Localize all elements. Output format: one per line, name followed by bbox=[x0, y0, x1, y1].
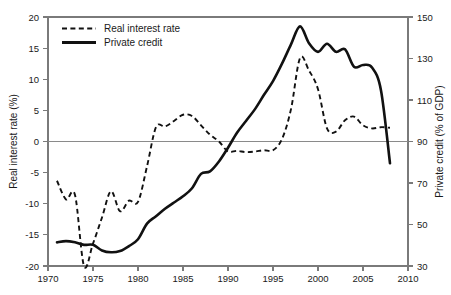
left-axis-ticks bbox=[43, 17, 48, 266]
x-tick-label: 1975 bbox=[82, 273, 103, 284]
right-axis-ticks bbox=[408, 17, 413, 266]
legend-label-private-credit: Private credit bbox=[104, 37, 163, 48]
left-tick-label: -20 bbox=[25, 261, 39, 272]
right-tick-label: 90 bbox=[417, 136, 428, 147]
right-axis-title: Private credit (% of GDP) bbox=[434, 85, 445, 197]
legend-label-real-interest-rate: Real interest rate bbox=[104, 23, 181, 34]
left-tick-label: 0 bbox=[34, 136, 39, 147]
right-tick-label: 50 bbox=[417, 219, 428, 230]
left-axis-title: Real interest rate (%) bbox=[8, 94, 19, 188]
series-private-credit bbox=[57, 26, 390, 252]
left-tick-label: 5 bbox=[34, 105, 39, 116]
left-tick-label: 20 bbox=[28, 12, 39, 23]
x-tick-label: 2000 bbox=[307, 273, 328, 284]
left-tick-label: -10 bbox=[25, 198, 39, 209]
right-axis-tick-labels: 150 130 110 90 70 50 30 bbox=[417, 12, 433, 272]
left-tick-label: -15 bbox=[25, 229, 39, 240]
right-tick-label: 150 bbox=[417, 12, 433, 23]
x-axis-tick-labels: 1970 1975 1980 1985 1990 1995 2000 2005 … bbox=[37, 273, 418, 284]
chart-canvas: 20 15 10 5 0 -5 -10 -15 -20 150 130 110 … bbox=[0, 0, 451, 295]
x-tick-label: 1980 bbox=[127, 273, 148, 284]
x-tick-label: 2005 bbox=[352, 273, 373, 284]
series-real-interest-rate bbox=[57, 56, 390, 267]
x-tick-label: 1970 bbox=[37, 273, 58, 284]
right-tick-label: 130 bbox=[417, 53, 433, 64]
chart-figure: 20 15 10 5 0 -5 -10 -15 -20 150 130 110 … bbox=[0, 0, 451, 295]
left-tick-label: -5 bbox=[31, 167, 39, 178]
right-tick-label: 30 bbox=[417, 261, 428, 272]
chart-legend: Real interest rate Private credit bbox=[62, 23, 181, 48]
left-tick-label: 10 bbox=[28, 74, 39, 85]
x-tick-label: 2010 bbox=[397, 273, 418, 284]
left-tick-label: 15 bbox=[28, 43, 39, 54]
x-axis-ticks bbox=[48, 266, 408, 271]
x-tick-label: 1985 bbox=[172, 273, 193, 284]
x-tick-label: 1995 bbox=[262, 273, 283, 284]
right-tick-label: 70 bbox=[417, 178, 428, 189]
x-tick-label: 1990 bbox=[217, 273, 238, 284]
right-tick-label: 110 bbox=[417, 95, 432, 106]
left-axis-tick-labels: 20 15 10 5 0 -5 -10 -15 -20 bbox=[25, 12, 39, 272]
